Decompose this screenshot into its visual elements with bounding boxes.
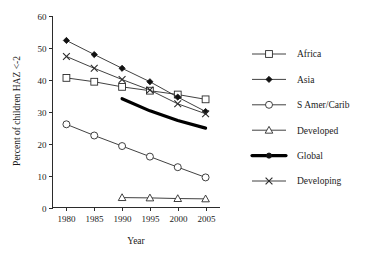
series-developed [118, 194, 209, 202]
data-point-filled-diamond [147, 79, 153, 85]
legend-item-global[interactable]: Global [252, 151, 323, 161]
x-tick-label: 1985 [86, 214, 105, 224]
data-point-filled-circle [266, 153, 271, 158]
data-point-open-circle [202, 174, 209, 181]
series-path [122, 198, 206, 199]
series-africa [63, 75, 209, 103]
chart-legend: AfricaAsiaS Amer/CaribDevelopedGlobalDev… [252, 49, 350, 186]
x-tick-label: 1990 [114, 214, 133, 224]
series-asia [63, 37, 208, 114]
data-point-open-square [63, 75, 70, 82]
data-point-cross [91, 65, 98, 72]
legend-item-label: Asia [297, 75, 315, 85]
data-point-cross [174, 100, 181, 107]
plot-frame [53, 16, 220, 208]
legend-item-africa[interactable]: Africa [252, 49, 322, 59]
data-point-filled-diamond [91, 51, 97, 57]
y-axis-ticks: 0102030405060 [38, 12, 53, 214]
y-tick-label: 0 [42, 204, 47, 214]
data-point-open-circle [266, 101, 273, 108]
y-tick-label: 20 [38, 140, 48, 150]
data-point-cross [119, 76, 126, 83]
series-path [66, 40, 205, 111]
legend-item-asia[interactable]: Asia [252, 75, 315, 85]
x-tick-label: 2005 [198, 214, 217, 224]
series-path [66, 124, 205, 177]
x-tick-label: 2000 [170, 214, 189, 224]
chart-figure: 0102030405060 198019851990199520002005 P… [0, 0, 380, 261]
x-axis-title: Year [127, 236, 145, 246]
y-axis-title: Percent of children HAZ <-2 [12, 56, 22, 166]
data-point-open-square [91, 78, 98, 85]
y-tick-label: 50 [38, 44, 48, 54]
series-layer [63, 37, 209, 201]
series-global [122, 99, 206, 128]
y-tick-label: 60 [38, 12, 48, 22]
x-tick-label: 1995 [142, 214, 161, 224]
data-point-filled-diamond [266, 76, 272, 82]
legend-item-label: Developed [297, 126, 338, 136]
data-point-cross [63, 53, 70, 60]
legend-item-label: S Amer/Carib [297, 100, 350, 110]
x-tick-label: 1980 [58, 214, 77, 224]
legend-item-label: Global [297, 151, 323, 161]
legend-item-label: Developing [297, 176, 342, 186]
series-s-amer-carib [63, 121, 209, 181]
data-point-open-square [119, 83, 126, 90]
data-point-open-circle [119, 143, 126, 150]
legend-item-s-amer-carib[interactable]: S Amer/Carib [252, 100, 350, 110]
y-tick-label: 30 [38, 108, 48, 118]
data-point-open-circle [91, 132, 98, 139]
data-point-filled-diamond [63, 37, 69, 43]
y-tick-label: 40 [38, 76, 48, 86]
data-point-open-square [266, 51, 273, 58]
legend-item-developing[interactable]: Developing [252, 176, 342, 186]
y-tick-label: 10 [38, 172, 48, 182]
data-point-open-circle [174, 164, 181, 171]
series-developing [63, 53, 209, 117]
data-point-open-circle [63, 121, 70, 128]
series-path [66, 78, 205, 99]
x-axis-ticks: 198019851990199520002005 [58, 208, 217, 224]
series-path [122, 99, 206, 128]
data-point-open-square [202, 96, 209, 103]
data-point-filled-diamond [119, 65, 125, 71]
legend-item-label: Africa [297, 49, 322, 59]
data-point-open-circle [146, 153, 153, 160]
line-chart: 0102030405060 198019851990199520002005 P… [0, 0, 380, 261]
legend-item-developed[interactable]: Developed [252, 126, 338, 136]
